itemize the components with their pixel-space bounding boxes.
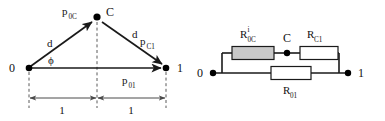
resistor-label-R01: R 01: [283, 84, 298, 100]
vector-label-p0C-base: p: [62, 5, 68, 17]
resistor-label-RC1-sub: C1: [314, 36, 323, 44]
right-panel-group: 0 C 1 R i 0C R C1 R 01: [197, 26, 364, 100]
vector-label-p0C-sub: 0C: [69, 13, 78, 21]
edge-label-d-left: d: [47, 37, 53, 49]
resistor-label-R01-sub: 01: [290, 92, 298, 100]
node-label-zero-right: 0: [197, 66, 203, 80]
dimension-label-left: 1: [59, 104, 65, 116]
node-dot-c-left: [93, 13, 100, 20]
node-dot-zero-left: [26, 65, 33, 72]
node-dot-one-right: [345, 70, 351, 76]
resistor-label-R0C-sub: 0C: [248, 36, 257, 44]
figure-root: 0 C 1 p 0C p C1 p 01 d d ϕ: [0, 0, 385, 121]
resistor-label-R0C: R i 0C: [240, 26, 256, 44]
node-label-one-right: 1: [358, 66, 364, 80]
node-dot-zero-right: [210, 70, 216, 76]
dimension-label-right: 1: [128, 104, 134, 116]
resistor-label-R0C-sup: i: [248, 26, 250, 34]
vector-label-pC1-base: p: [140, 35, 146, 47]
resistor-label-RC1: R C1: [307, 28, 323, 44]
vector-p0C-arrow: [31, 22, 92, 66]
left-panel-group: 0 C 1 p 0C p C1 p 01 d d ϕ: [9, 5, 183, 116]
node-label-zero-left: 0: [9, 61, 15, 75]
vector-label-p01-sub: 01: [129, 82, 137, 90]
vector-label-p01: p 01: [122, 74, 136, 90]
vector-label-pC1-sub: C1: [147, 43, 156, 51]
node-label-one-left: 1: [177, 61, 183, 75]
resistor-box-RC1: [300, 47, 338, 60]
resistor-box-R0C: [232, 47, 274, 60]
resistor-box-R01: [271, 67, 311, 80]
diagram-canvas: 0 C 1 p 0C p C1 p 01 d d ϕ: [0, 0, 385, 121]
edge-label-d-right: d: [132, 28, 138, 40]
node-label-c-left: C: [106, 5, 114, 19]
node-label-c-right: C: [283, 31, 291, 45]
node-dot-c-right: [284, 50, 290, 56]
vector-label-p01-base: p: [122, 74, 128, 86]
node-dot-one-left: [163, 65, 170, 72]
vector-label-p0C: p 0C: [62, 5, 77, 21]
vector-label-pC1: p C1: [140, 35, 155, 51]
angle-label-phi: ϕ: [48, 54, 54, 66]
